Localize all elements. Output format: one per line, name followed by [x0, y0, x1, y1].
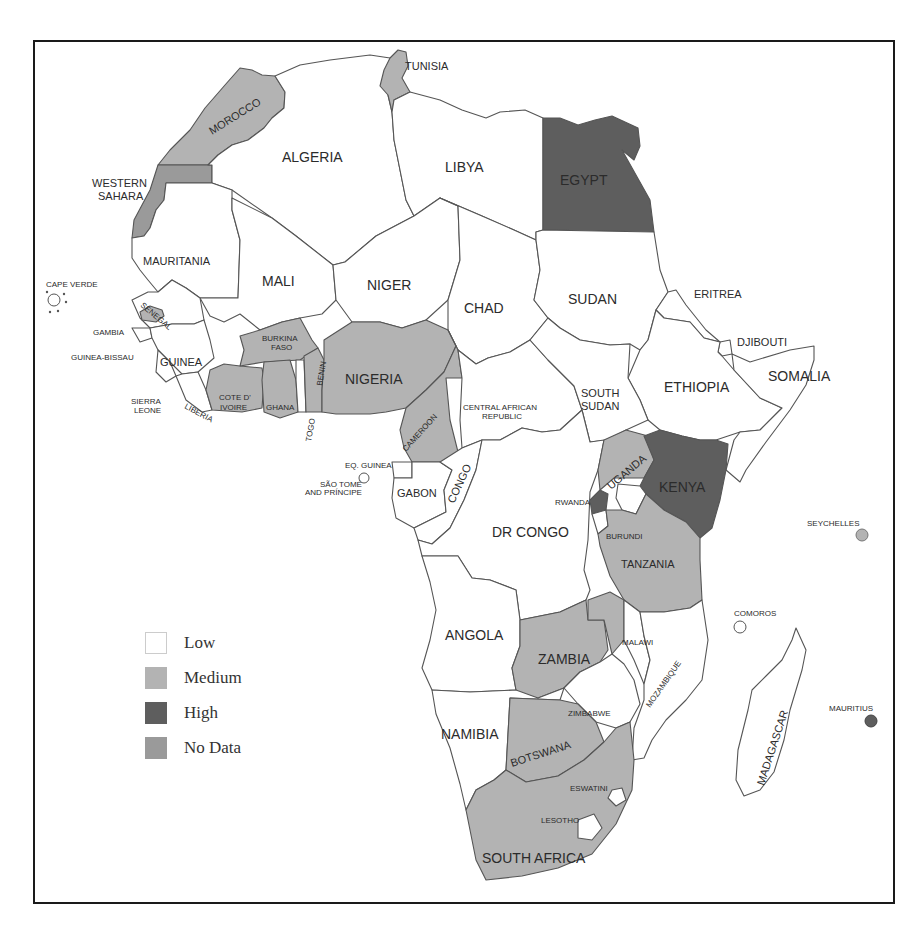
label-mauritius: MAURITIUS	[829, 704, 873, 713]
label-namibia: NAMIBIA	[441, 726, 499, 742]
label-tunisia: TUNISIA	[405, 60, 449, 72]
legend-swatch-no-data	[145, 737, 167, 759]
label-cape-verde: CAPE VERDE	[46, 280, 98, 289]
label-zambia: ZAMBIA	[538, 651, 591, 667]
label-algeria: ALGERIA	[282, 149, 343, 165]
label-eswatini: ESWATINI	[570, 784, 608, 793]
label-guinea-bissau: GUINEA-BISSAU	[71, 353, 134, 362]
label-car-1: CENTRAL AFRICAN	[463, 403, 537, 412]
label-gambia: GAMBIA	[93, 328, 125, 337]
legend-item-no-data: No Data	[145, 730, 242, 765]
label-angola: ANGOLA	[445, 627, 504, 643]
africa-map: MOROCCO WESTERN SAHARA ALGERIA TUNISIA L…	[0, 0, 911, 934]
label-nigeria: NIGERIA	[345, 371, 403, 387]
label-comoros: COMOROS	[734, 609, 776, 618]
label-zimbabwe: ZIMBABWE	[568, 709, 611, 718]
label-sierra-leone-2: LEONE	[134, 406, 161, 415]
label-sao-tome-2: AND PRÍNCIPE	[305, 488, 362, 497]
label-djibouti: DJIBOUTI	[737, 336, 787, 348]
legend-label-high: High	[184, 703, 218, 723]
cape-verde-islet	[57, 310, 59, 312]
label-niger: NIGER	[367, 277, 411, 293]
label-seychelles: SEYCHELLES	[807, 519, 859, 528]
label-lesotho: LESOTHO	[541, 816, 579, 825]
label-rwanda: RWANDA	[555, 498, 591, 507]
legend-item-low: Low	[145, 625, 242, 660]
label-mauritania: MAURITANIA	[143, 255, 211, 267]
legend-item-high: High	[145, 695, 242, 730]
label-burundi: BURUNDI	[606, 532, 642, 541]
label-tanzania: TANZANIA	[621, 558, 675, 570]
cape-verde-islet	[49, 311, 51, 313]
cape-verde-islet	[63, 293, 65, 295]
country-comoros[interactable]	[734, 621, 746, 633]
legend-swatch-low	[145, 632, 167, 654]
label-malawi: MALAWI	[622, 638, 653, 647]
label-eritrea: ERITREA	[694, 288, 742, 300]
cape-verde-islet	[46, 291, 48, 293]
legend-label-medium: Medium	[184, 668, 242, 688]
label-chad: CHAD	[464, 300, 504, 316]
legend-swatch-high	[145, 702, 167, 724]
label-mali: MALI	[262, 273, 295, 289]
label-south-sudan-2: SUDAN	[581, 400, 620, 412]
label-somalia: SOMALIA	[768, 368, 831, 384]
label-south-africa: SOUTH AFRICA	[482, 850, 586, 866]
cape-verde-islet	[65, 301, 67, 303]
label-cote-divoire-2: IVOIRE	[220, 403, 247, 412]
legend-item-medium: Medium	[145, 660, 242, 695]
country-guinea-bissau[interactable]	[132, 328, 152, 342]
map-legend: Low Medium High No Data	[145, 625, 242, 765]
label-egypt: EGYPT	[560, 172, 608, 188]
label-western-sahara-1: WESTERN	[92, 177, 147, 189]
country-seychelles[interactable]	[856, 529, 868, 541]
label-ghana: GHANA	[266, 403, 295, 412]
label-togo: TOGO	[304, 418, 317, 443]
label-car-2: REPUBLIC	[482, 412, 522, 421]
country-eq-guinea[interactable]	[392, 462, 412, 478]
label-burkina-faso-1: BURKINA	[262, 334, 298, 343]
label-eq-guinea: EQ. GUINEA	[345, 461, 392, 470]
legend-swatch-medium	[145, 667, 167, 689]
country-mauritius[interactable]	[865, 715, 877, 727]
label-guinea: GUINEA	[160, 356, 203, 368]
label-cote-divoire-1: COTE D'	[219, 393, 251, 402]
label-gabon: GABON	[397, 487, 437, 499]
legend-label-low: Low	[184, 633, 215, 653]
label-ethiopia: ETHIOPIA	[664, 379, 730, 395]
legend-label-no-data: No Data	[184, 738, 241, 758]
label-sierra-leone-1: SIERRA	[131, 397, 161, 406]
label-libya: LIBYA	[445, 159, 484, 175]
label-sudan: SUDAN	[568, 291, 617, 307]
country-cape-verde[interactable]	[48, 294, 60, 306]
label-dr-congo: DR CONGO	[492, 524, 569, 540]
label-south-sudan-1: SOUTH	[581, 387, 620, 399]
label-western-sahara-2: SAHARA	[98, 190, 144, 202]
label-burkina-faso-2: FASO	[271, 343, 292, 352]
label-kenya: KENYA	[659, 479, 706, 495]
